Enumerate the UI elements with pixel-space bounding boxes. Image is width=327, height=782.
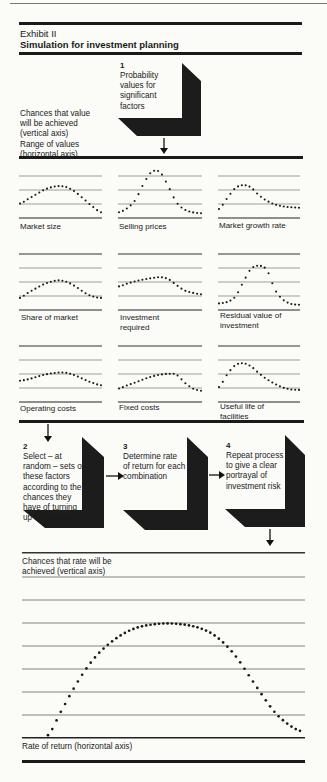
factor-label-operating-costs: Operating costs <box>20 404 76 414</box>
factor-chart <box>118 346 202 402</box>
factor-chart <box>19 254 102 310</box>
arrow-down-icon <box>160 148 168 154</box>
arrow-down-icon <box>266 540 274 546</box>
factor-label-fixed-costs: Fixed costs <box>119 403 159 413</box>
factor-chart <box>118 170 202 218</box>
step-2-text: 2 Select – at random – sets of these fac… <box>23 442 84 523</box>
factor-label-market-size: Market size <box>20 222 61 232</box>
diagram-shapes <box>0 0 327 782</box>
factor-label-selling-prices: Selling prices <box>119 222 167 232</box>
factor-chart <box>218 176 300 218</box>
factor-chart <box>118 254 202 310</box>
result-chart-xlabel: Rate of return (horizontal axis) <box>22 742 132 752</box>
result-curve <box>47 622 302 736</box>
factor-chart <box>19 176 102 218</box>
arrow-right-icon <box>219 471 225 479</box>
factor-label-useful-life: Useful life offacilities <box>220 402 264 422</box>
factor-label-share-of-market: Share of market <box>21 313 78 323</box>
step-3-text: 3 Determine rate of return for each comb… <box>123 442 185 483</box>
step-4-text: 4 Repeat process to give a clear portray… <box>226 441 283 492</box>
factor-charts <box>19 170 300 402</box>
factor-chart <box>19 346 102 402</box>
factor-chart <box>218 254 300 310</box>
step-1-text: 1 Probability values for significant fac… <box>120 61 158 112</box>
factor-label-investment-required: Investmentrequired <box>120 313 159 333</box>
factor-label-residual-value: Residual value ofinvestment <box>220 311 281 331</box>
factor-label-market-growth-rate: Market growth rate <box>219 221 286 231</box>
result-chart-ylabel: Chances that rate will be achieved (vert… <box>22 557 112 577</box>
factor-chart <box>218 346 300 402</box>
